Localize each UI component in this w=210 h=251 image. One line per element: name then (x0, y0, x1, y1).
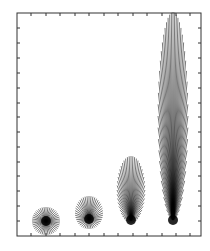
fan-core (41, 216, 51, 226)
figure (0, 0, 210, 251)
plot-area (0, 0, 210, 251)
fan-core (126, 215, 136, 225)
fan-core (84, 214, 94, 224)
fan-core (168, 215, 178, 225)
